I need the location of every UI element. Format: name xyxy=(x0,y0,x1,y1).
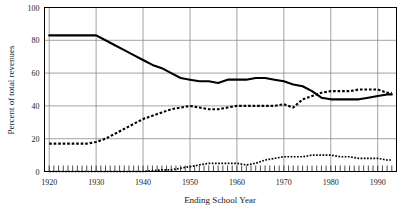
y-tick-label: 80 xyxy=(32,36,40,45)
y-tick-label: 20 xyxy=(32,135,40,144)
x-tick-label: 1920 xyxy=(41,178,57,187)
line-chart: 020406080100 192019301940195019601970198… xyxy=(0,0,409,209)
x-tick-label: 1980 xyxy=(323,178,339,187)
y-axis-title: Percent of total revenues xyxy=(6,45,16,135)
y-tick-label: 100 xyxy=(28,4,40,13)
x-axis-title: Ending School Year xyxy=(184,195,256,205)
y-tick-label: 60 xyxy=(32,69,40,78)
x-tick-label: 1940 xyxy=(135,178,151,187)
x-tick-label: 1970 xyxy=(276,178,292,187)
chart-background xyxy=(0,0,409,209)
x-tick-label: 1990 xyxy=(370,178,386,187)
x-tick-label: 1930 xyxy=(88,178,104,187)
x-tick-label: 1950 xyxy=(182,178,198,187)
chart-container: 020406080100 192019301940195019601970198… xyxy=(0,0,409,209)
y-tick-label: 0 xyxy=(36,168,40,177)
x-tick-label: 1960 xyxy=(229,178,245,187)
y-tick-label: 40 xyxy=(32,102,40,111)
